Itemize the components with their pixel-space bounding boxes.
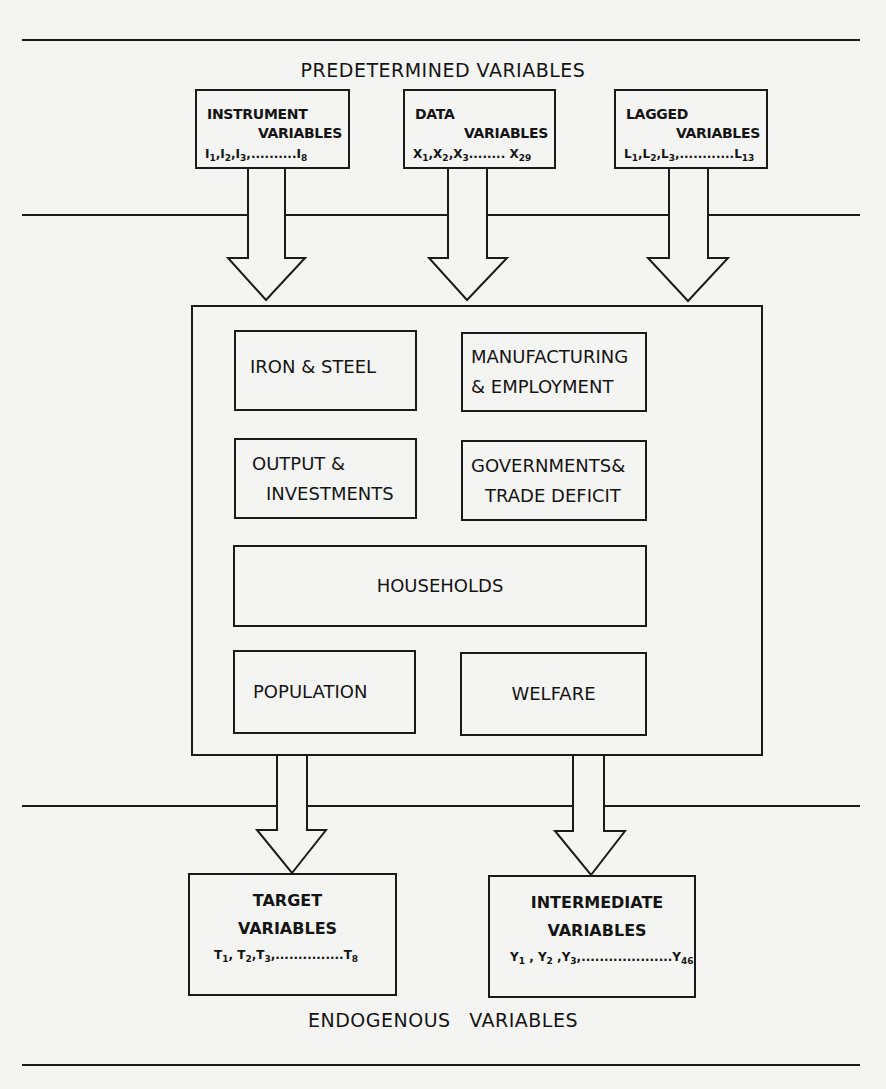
lagged-variables-box: LAGGED VARIABLES L1,L2,L3,............L1… (614, 89, 768, 169)
arrow-down-icon (228, 168, 305, 300)
manufacturing-employment-label-line2: & EMPLOYMENT (471, 372, 628, 402)
arrow-down-icon (257, 755, 326, 873)
data-variables-box: DATA VARIABLES X1,X2,X3........ X29 (403, 89, 556, 169)
data-variables-label-line1: DATA (415, 106, 454, 122)
lagged-variables-label-line1: LAGGED (626, 106, 688, 122)
output-investments-block: OUTPUT & INVESTMENTS (234, 438, 417, 519)
output-investments-label-line1: OUTPUT & (252, 449, 394, 479)
intermediate-variables-box: INTERMEDIATE VARIABLES Y1 , Y2 ,Y3,.....… (488, 875, 696, 998)
data-variables-list: X1,X2,X3........ X29 (413, 147, 548, 163)
households-block: HOUSEHOLDS (233, 545, 647, 627)
target-variables-label-line1: TARGET (190, 887, 385, 915)
governments-trade-deficit-label-line2: TRADE DEFICIT (471, 481, 625, 511)
iron-steel-label: IRON & STEEL (236, 332, 376, 382)
arrow-down-icon (555, 755, 625, 875)
target-variables-label-line2: VARIABLES (190, 915, 385, 943)
welfare-label: WELFARE (511, 679, 595, 709)
population-label: POPULATION (235, 677, 367, 707)
lagged-variables-label-line2: VARIABLES (676, 125, 760, 141)
welfare-block: WELFARE (460, 652, 647, 736)
instrument-variables-box: INSTRUMENT VARIABLES I1,I2,I3,..........… (195, 89, 350, 169)
intermediate-variables-list: Y1 , Y2 ,Y3,....................Y46 (510, 950, 694, 966)
output-investments-label-line2: INVESTMENTS (252, 479, 394, 509)
manufacturing-employment-block: MANUFACTURING & EMPLOYMENT (461, 332, 647, 412)
target-variables-list: T1, T2,T3,...............T8 (214, 948, 358, 964)
intermediate-variables-label-line2: VARIABLES (500, 917, 694, 945)
lagged-variables-list: L1,L2,L3,............L13 (624, 147, 760, 163)
target-variables-box: TARGET VARIABLES T1, T2,T3,.............… (188, 873, 397, 996)
arrow-down-icon (648, 168, 728, 301)
manufacturing-employment-label-line1: MANUFACTURING (471, 342, 628, 372)
governments-trade-deficit-label-line1: GOVERNMENTS& (471, 451, 625, 481)
intermediate-variables-label-line1: INTERMEDIATE (500, 889, 694, 917)
instrument-variables-label-line1: INSTRUMENT (207, 106, 307, 122)
data-variables-label-line2: VARIABLES (464, 125, 548, 141)
governments-trade-deficit-block: GOVERNMENTS& TRADE DEFICIT (461, 440, 647, 521)
iron-steel-block: IRON & STEEL (234, 330, 417, 411)
instrument-variables-list: I1,I2,I3,..........I8 (205, 147, 342, 163)
instrument-variables-label-line2: VARIABLES (258, 125, 342, 141)
arrow-down-icon (429, 168, 507, 300)
population-block: POPULATION (233, 650, 416, 734)
households-label: HOUSEHOLDS (377, 571, 504, 601)
